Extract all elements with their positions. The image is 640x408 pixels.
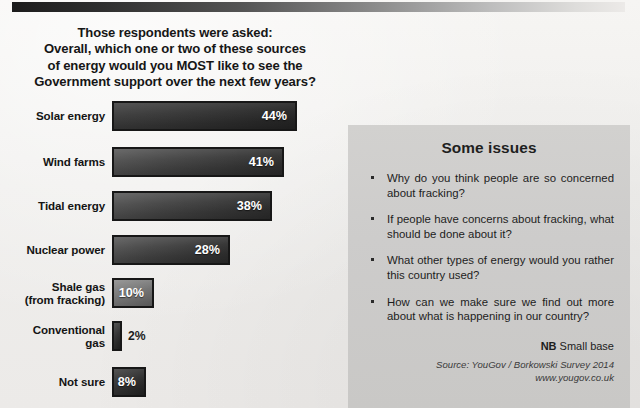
bullet-icon: [371, 217, 374, 220]
nb-note: NB Small base: [348, 340, 614, 352]
bar-category-label: Solar energy: [0, 109, 105, 122]
bar-track: 8%: [112, 367, 146, 397]
bar-category-label-second-line: (from fracking): [0, 293, 105, 306]
bar-row: Shale gas(from fracking)10%: [0, 278, 340, 308]
issue-list-item: What other types of energy would you rat…: [362, 253, 614, 282]
bar-category-label: Not sure: [0, 375, 105, 388]
bar-value-label: 2%: [128, 329, 146, 343]
issues-list: Why do you think people are so concerned…: [348, 171, 630, 324]
nb-label: NB: [541, 340, 557, 352]
bar: 10%: [112, 278, 154, 308]
issue-text: If people have concerns about fracking, …: [387, 213, 614, 240]
issue-list-item: Why do you think people are so concerned…: [362, 171, 614, 200]
issue-text: How can we make sure we find out more ab…: [387, 296, 614, 323]
bar-row: Conventionalgas2%: [0, 321, 340, 351]
bar-category-label: Tidal energy: [0, 199, 105, 212]
top-gradient-rule: [12, 2, 625, 12]
bar-value-label: 44%: [262, 109, 287, 123]
bar-category-label: Shale gas(from fracking): [0, 280, 105, 307]
bar-track: 44%: [112, 101, 297, 131]
issue-list-item: How can we make sure we find out more ab…: [362, 295, 614, 324]
source-credit: Source: YouGov / Borkowski Survey 2014 w…: [436, 358, 614, 384]
bar-row: Nuclear power28%: [0, 235, 340, 265]
bar-track: 2%: [112, 321, 122, 351]
bar-track: 38%: [112, 191, 272, 221]
heading-line-2: Overall, which one or two of these sourc…: [14, 41, 336, 57]
bar: 38%: [112, 191, 272, 221]
bar: 8%: [112, 367, 146, 397]
bar-row: Solar energy44%: [0, 101, 340, 131]
issue-text: Why do you think people are so concerned…: [387, 172, 614, 199]
bar-value-label: 28%: [195, 243, 220, 257]
issue-text: What other types of energy would you rat…: [387, 254, 614, 281]
horizontal-bar-chart: Solar energy44%Wind farms41%Tidal energy…: [0, 96, 340, 408]
bar-value-label: 8%: [118, 375, 136, 389]
heading-line-1: Those respondents were asked:: [14, 25, 336, 41]
bar-category-label: Wind farms: [0, 155, 105, 168]
bar: [112, 321, 122, 351]
bar-value-label: 41%: [249, 155, 274, 169]
bar-category-label: Nuclear power: [0, 243, 105, 256]
bar-row: Tidal energy38%: [0, 191, 340, 221]
bar-category-label: Conventionalgas: [0, 323, 105, 350]
source-line-1: Source: YouGov / Borkowski Survey 2014: [436, 358, 614, 371]
page-title: Those respondents were asked: Overall, w…: [14, 25, 336, 91]
bar-row: Wind farms41%: [0, 147, 340, 177]
heading-line-3: of energy would you MOST like to see the: [14, 58, 336, 74]
nb-text: Small base: [557, 340, 614, 352]
bar-value-label: 10%: [119, 286, 144, 300]
bar-track: 10%: [112, 278, 154, 308]
bullet-icon: [371, 176, 374, 179]
bar-value-label: 38%: [237, 199, 262, 213]
bullet-icon: [371, 300, 374, 303]
heading-line-4: Government support over the next few yea…: [14, 74, 336, 90]
bullet-icon: [371, 258, 374, 261]
bar: 28%: [112, 235, 230, 265]
some-issues-panel: Some issues Why do you think people are …: [348, 125, 630, 408]
bar-category-label-second-line: gas: [0, 336, 105, 349]
bar-track: 28%: [112, 235, 230, 265]
bar-row: Not sure8%: [0, 367, 340, 397]
source-line-2: www.yougov.co.uk: [436, 371, 614, 384]
bar-track: 41%: [112, 147, 284, 177]
issue-list-item: If people have concerns about fracking, …: [362, 212, 614, 241]
bar: 44%: [112, 101, 297, 131]
panel-title: Some issues: [348, 139, 630, 157]
bar: 41%: [112, 147, 284, 177]
